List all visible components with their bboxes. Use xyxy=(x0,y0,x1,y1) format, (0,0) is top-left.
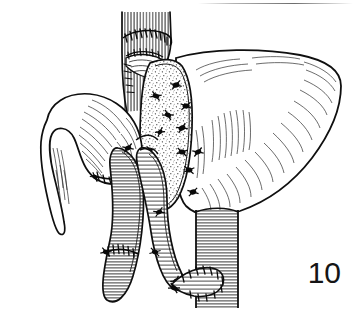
illustration-linework xyxy=(41,12,341,308)
figure-number-label: 10 xyxy=(308,258,341,288)
liver xyxy=(140,50,341,216)
figure-illustration: 10 xyxy=(0,0,355,316)
surgical-illustration-svg xyxy=(0,0,355,316)
